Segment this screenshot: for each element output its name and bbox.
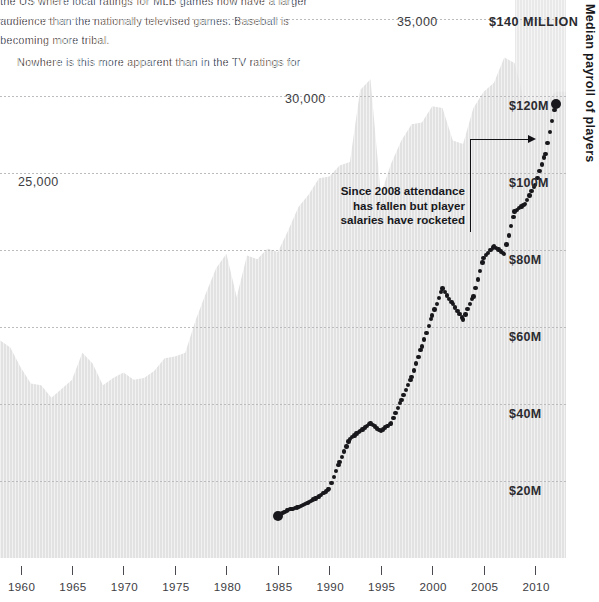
- payroll-endpoint-dot: [551, 99, 561, 109]
- payroll-dot: [543, 152, 547, 156]
- payroll-dot: [471, 294, 475, 298]
- x-tick-label-1990: 1990: [317, 580, 344, 593]
- right-axis-title: Median payroll of players: [583, 4, 597, 163]
- payroll-dot: [412, 368, 416, 372]
- left-axis-tick-25000: 25,000: [18, 175, 59, 189]
- payroll-dot: [416, 355, 420, 359]
- x-tick-label-1975: 1975: [162, 580, 189, 593]
- payroll-dot: [432, 307, 436, 311]
- gridline-40M: [0, 404, 566, 405]
- x-tick-label-1960: 1960: [8, 580, 35, 593]
- payroll-dot: [545, 141, 549, 145]
- gridline-120M: [0, 96, 566, 97]
- payroll-dot: [337, 460, 341, 464]
- payroll-dot: [511, 215, 515, 219]
- chart-area: 25,00030,00035,000 $20M$40M$60M$80M$100M…: [0, 0, 566, 558]
- x-tick-2010: [535, 566, 536, 575]
- right-axis-tick-40M: $40M: [509, 407, 541, 421]
- x-tick-1965: [72, 566, 73, 575]
- right-axis-tick-20M: $20M: [509, 484, 541, 498]
- annotation-line-2: has fallen but player: [325, 199, 465, 214]
- chart-annotation: Since 2008 attendance has fallen but pla…: [325, 184, 465, 228]
- payroll-dot: [420, 344, 424, 348]
- payroll-dot: [332, 475, 336, 479]
- gridline-60M: [0, 327, 566, 328]
- payroll-dot: [476, 277, 480, 281]
- payroll-dot: [409, 375, 413, 379]
- payroll-endpoint-dot: [273, 511, 283, 521]
- x-tick-label-2010: 2010: [522, 580, 549, 593]
- payroll-dot: [504, 242, 508, 246]
- x-tick-1985: [278, 566, 279, 575]
- payroll-dot: [527, 193, 531, 197]
- gridline-140MILLION: [0, 19, 566, 20]
- payroll-dot: [340, 455, 344, 459]
- x-tick-label-1995: 1995: [368, 580, 395, 593]
- payroll-dot: [427, 324, 431, 328]
- x-tick-2005: [484, 566, 485, 575]
- x-tick-label-2000: 2000: [420, 580, 447, 593]
- x-tick-1960: [21, 566, 22, 575]
- annotation-line-1: Since 2008 attendance: [325, 184, 465, 199]
- annotation-leader-horizontal: [470, 139, 530, 140]
- payroll-dot: [329, 481, 333, 485]
- plot-canvas: [0, 0, 566, 558]
- gridline-20M: [0, 481, 566, 482]
- annotation-line-3: salaries have rocketed: [325, 213, 465, 228]
- payroll-dot: [540, 162, 544, 166]
- left-axis-tick-35000: 35,000: [397, 15, 438, 29]
- payroll-dot: [435, 302, 439, 306]
- gridline-100M: [0, 173, 566, 174]
- x-tick-label-2005: 2005: [471, 580, 498, 593]
- attendance-area-series: [0, 0, 566, 558]
- payroll-dot: [399, 398, 403, 402]
- x-tick-label-1970: 1970: [111, 580, 138, 593]
- payroll-dot: [461, 317, 465, 321]
- x-tick-1990: [329, 566, 330, 575]
- x-axis: 1960196519701975198019851990199520002005…: [0, 558, 599, 602]
- payroll-dot: [414, 361, 418, 365]
- x-tick-1995: [381, 566, 382, 575]
- payroll-dot: [391, 416, 395, 420]
- x-tick-1970: [123, 566, 124, 575]
- payroll-dot: [463, 312, 467, 316]
- x-tick-1975: [175, 566, 176, 575]
- right-axis-tick-120M: $120M: [509, 99, 549, 113]
- chart-page: the US where local ratings for MLB games…: [0, 0, 599, 602]
- x-tick-label-1980: 1980: [214, 580, 241, 593]
- payroll-dot: [389, 421, 393, 425]
- left-axis-tick-30000: 30,000: [285, 92, 326, 106]
- x-tick-1980: [226, 566, 227, 575]
- payroll-dot: [393, 411, 397, 415]
- payroll-dot: [344, 444, 348, 448]
- payroll-dot: [424, 331, 428, 335]
- payroll-dot: [342, 449, 346, 453]
- x-tick-2000: [432, 566, 433, 575]
- x-tick-label-1965: 1965: [59, 580, 86, 593]
- right-axis-tick-80M: $80M: [509, 253, 541, 267]
- x-tick-label-1985: 1985: [265, 580, 292, 593]
- right-axis-tick-100M: $100M: [509, 176, 549, 190]
- annotation-leader-vertical: [470, 139, 471, 232]
- payroll-dot: [473, 286, 477, 290]
- payroll-dot: [480, 260, 484, 264]
- annotation-arrowhead-icon: [528, 135, 536, 143]
- payroll-dot: [507, 233, 511, 237]
- right-axis-tick-140MILLION: $140 MILLION: [489, 15, 578, 29]
- payroll-dot: [523, 202, 527, 206]
- right-axis-tick-60M: $60M: [509, 330, 541, 344]
- gridline-80M: [0, 250, 566, 251]
- payroll-dot: [437, 296, 441, 300]
